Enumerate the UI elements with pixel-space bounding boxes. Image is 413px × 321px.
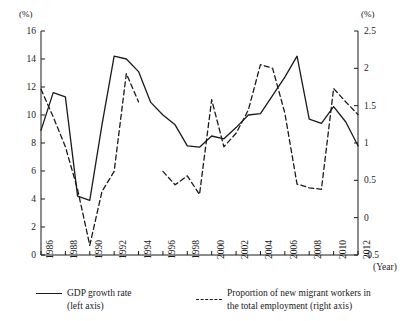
legend-item-gdp-growth: GDP growth rate (left axis) [36,286,196,312]
legend-label-gdp-growth: GDP growth rate [67,288,132,298]
legend-item-migrant-share: Proportion of new migrant workers in the… [196,286,411,312]
chart-figure: (%) (%) 0246810121416 -0.500.511.522.5 1… [0,0,413,321]
solid-line-swatch-icon [36,289,62,297]
series-line [163,65,358,195]
dashed-line-swatch-icon [196,295,222,303]
plot-area [0,0,413,321]
chart-legend: GDP growth rate (left axis) Proportion o… [0,286,413,320]
axes [41,31,358,255]
series-line [41,56,358,200]
legend-label-migrant-share: Proportion of new migrant workers in [227,288,371,298]
legend-sublabel-migrant-share: the total employment (right axis) [227,300,407,312]
legend-sublabel-gdp-growth: (left axis) [67,300,196,312]
data-series [41,56,358,245]
series-line [41,74,139,246]
